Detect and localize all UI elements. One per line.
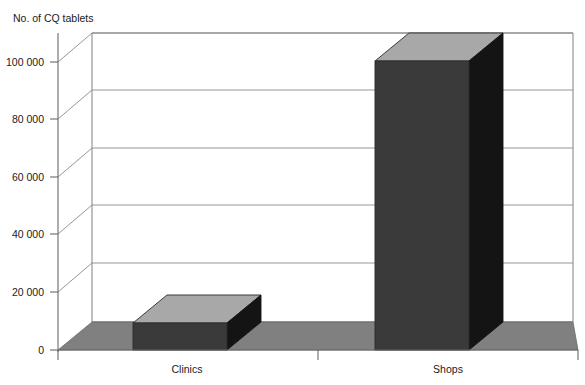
depth-connector-20000 — [58, 263, 92, 292]
y-tick-label-0: 0 — [38, 344, 44, 356]
gridline-depth-connectors — [58, 33, 92, 292]
depth-connector-60000 — [58, 148, 92, 177]
y-tick-label-40000: 40 000 — [12, 228, 44, 240]
x-category-label-shops: Shops — [433, 363, 463, 375]
bar-shops[interactable] — [375, 33, 503, 350]
depth-connector-80000 — [58, 90, 92, 119]
y-tick-label-60000: 60 000 — [12, 171, 44, 183]
y-axis-ticks — [50, 62, 58, 350]
depth-connector-100000 — [58, 33, 92, 62]
y-tick-label-80000: 80 000 — [12, 113, 44, 125]
x-axis — [58, 350, 578, 360]
y-tick-label-100000: 100 000 — [6, 56, 44, 68]
y-axis-title: No. of CQ tablets — [13, 12, 94, 24]
y-axis — [50, 33, 58, 352]
x-category-labels: Clinics Shops — [172, 363, 463, 375]
y-tick-labels: 0 20 000 40 000 60 000 80 000 100 000 — [6, 56, 44, 356]
depth-connector-40000 — [58, 205, 92, 234]
bar-clinics-front-face — [133, 323, 227, 350]
x-category-label-clinics: Clinics — [172, 363, 203, 375]
y-tick-label-20000: 20 000 — [12, 286, 44, 298]
chart-container: 0 20 000 40 000 60 000 80 000 100 000 No… — [0, 0, 585, 385]
bar-shops-side-face — [469, 33, 503, 350]
bar-shops-front-face — [375, 61, 469, 350]
bar-chart-3d: 0 20 000 40 000 60 000 80 000 100 000 No… — [0, 0, 585, 385]
